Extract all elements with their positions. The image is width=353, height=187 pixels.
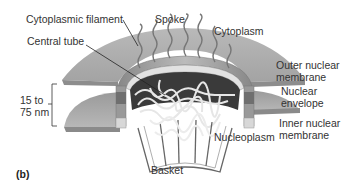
label-nuclear-envelope-1: Nuclear: [281, 85, 317, 97]
label-inner-nuclear-membrane-2: membrane: [279, 129, 329, 141]
label-dimension-2: 75 nm: [20, 106, 49, 118]
label-cytoplasmic-filament: Cytoplasmic filament: [26, 13, 123, 25]
label-nuclear-envelope-2: envelope: [281, 97, 324, 109]
dimension-bracket: [48, 84, 57, 126]
label-outer-nuclear-membrane-2: membrane: [276, 71, 326, 83]
label-dimension-1: 15 to: [20, 94, 43, 106]
label-spoke: Spoke: [155, 13, 185, 25]
label-central-tube: Central tube: [27, 35, 84, 47]
panel-label: (b): [16, 168, 29, 180]
label-basket: Basket: [151, 164, 183, 176]
label-inner-nuclear-membrane-1: Inner nuclear: [279, 117, 340, 129]
label-nucleoplasm: Nucleoplasm: [214, 131, 275, 143]
label-cytoplasm: Cytoplasm: [214, 25, 264, 37]
label-outer-nuclear-membrane-1: Outer nuclear: [276, 59, 340, 71]
